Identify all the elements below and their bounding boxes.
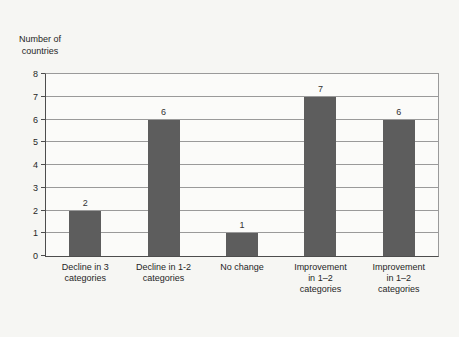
y-tick-label: 5 <box>33 137 38 147</box>
gridline <box>46 210 438 211</box>
gridline <box>46 96 438 97</box>
y-tick-mark <box>41 255 45 256</box>
y-tick-mark <box>41 232 45 233</box>
bar <box>383 120 415 257</box>
category-label: Decline in 1-2 categories <box>120 262 208 284</box>
y-tick-mark <box>41 73 45 74</box>
bar <box>148 120 180 257</box>
y-tick-mark <box>41 187 45 188</box>
y-tick-mark <box>41 210 45 211</box>
y-tick-label: 1 <box>33 228 38 238</box>
y-tick-label: 7 <box>33 92 38 102</box>
y-tick-label: 0 <box>33 251 38 261</box>
y-axis-title: Number of countries <box>10 33 70 57</box>
category-label: Improvement in 1–2 categories <box>355 262 443 295</box>
gridline <box>46 164 438 165</box>
bar-value-label: 2 <box>69 198 101 208</box>
category-label: Improvement in 1–2 categories <box>276 262 364 295</box>
bar-value-label: 6 <box>148 107 180 117</box>
bar-value-label: 6 <box>383 107 415 117</box>
y-tick-label: 3 <box>33 183 38 193</box>
bar <box>226 233 258 256</box>
gridline <box>46 141 438 142</box>
y-tick-label: 6 <box>33 115 38 125</box>
y-tick-mark <box>41 96 45 97</box>
y-tick-mark <box>41 119 45 120</box>
bar-chart-figure: Number of countries 0123456782Decline in… <box>0 0 459 337</box>
plot-area: 0123456782Decline in 3 categories6Declin… <box>45 73 439 257</box>
bar-value-label: 1 <box>226 220 258 230</box>
bar <box>69 211 101 257</box>
gridline <box>46 119 438 120</box>
bar <box>304 97 336 256</box>
y-tick-label: 4 <box>33 160 38 170</box>
y-tick-label: 8 <box>33 69 38 79</box>
y-tick-mark <box>41 141 45 142</box>
y-tick-label: 2 <box>33 206 38 216</box>
category-label: Decline in 3 categories <box>41 262 129 284</box>
gridline <box>46 187 438 188</box>
category-label: No change <box>198 262 286 273</box>
y-tick-mark <box>41 164 45 165</box>
bar-value-label: 7 <box>304 84 336 94</box>
